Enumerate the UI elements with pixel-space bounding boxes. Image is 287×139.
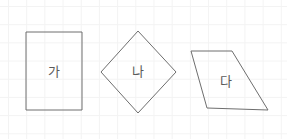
shape-label-da: 다 xyxy=(220,75,232,88)
shape-label-na: 나 xyxy=(132,65,144,78)
shape-label-ga: 가 xyxy=(48,65,60,78)
shapes-canvas: 가 나 다 xyxy=(0,0,287,139)
